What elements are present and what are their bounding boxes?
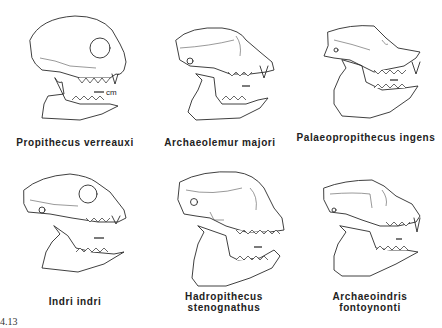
figure-number: 4.13 <box>0 316 18 327</box>
skull-propithecus-drawing: cm <box>0 0 150 160</box>
label-indri-indri: Indri indri <box>0 296 150 307</box>
skull-archaeoindris-drawing <box>300 160 442 300</box>
label-palaeopropithecus-ingens: Palaeopropithecus ingens <box>290 132 442 143</box>
panel-indri-indri: Indri indri <box>0 160 150 300</box>
panel-archaeolemur-majori: Archaeolemur majori <box>150 0 290 160</box>
label-hadropithecus-stenognathus: Hadropithecus stenognathus <box>174 291 274 313</box>
label-archaeoindris-fontoynonti: Archaeoindris fontoynonti <box>310 291 430 313</box>
panel-palaeopropithecus-ingens: Palaeopropithecus ingens <box>290 0 442 160</box>
panel-archaeoindris-fontoynonti: Archaeoindris fontoynonti <box>300 160 442 300</box>
skull-indri-drawing <box>0 160 150 300</box>
svg-text:cm: cm <box>106 88 117 97</box>
skull-hadropithecus-drawing <box>150 160 300 300</box>
label-archaeolemur-majori: Archaeolemur majori <box>150 137 290 148</box>
skull-archaeolemur-drawing <box>150 0 290 160</box>
panel-propithecus-verreauxi: cm Propithecus verreauxi <box>0 0 150 160</box>
panel-hadropithecus-stenognathus: Hadropithecus stenognathus <box>150 160 300 300</box>
label-propithecus-verreauxi: Propithecus verreauxi <box>0 137 150 148</box>
